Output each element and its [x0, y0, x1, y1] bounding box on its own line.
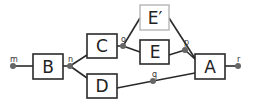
port-label-q: q: [152, 70, 157, 79]
box-A: A: [195, 54, 225, 79]
port-label-n: n: [68, 55, 73, 64]
box-label-D: D: [95, 76, 108, 96]
boxes: B C D E′ E A: [33, 5, 225, 98]
port-label-p: p: [184, 38, 189, 47]
port-label-r: r: [237, 55, 241, 64]
box-B: B: [33, 54, 63, 79]
edge-D-to-q: [117, 81, 153, 88]
port-dot-p: [182, 47, 188, 53]
box-label-E-prime: E′: [148, 8, 163, 28]
dataflow-diagram: B C D E′ E A m n o p: [0, 0, 253, 108]
edge-q-to-A: [153, 73, 195, 81]
port-label-o: o: [121, 35, 126, 44]
box-C: C: [87, 34, 117, 58]
box-label-C: C: [96, 36, 108, 56]
port-label-m: m: [10, 55, 18, 64]
box-E: E: [140, 40, 169, 64]
box-label-A: A: [204, 57, 216, 77]
box-label-E: E: [150, 42, 161, 62]
box-E-prime: E′: [140, 5, 169, 30]
box-D: D: [87, 74, 117, 98]
box-label-B: B: [42, 57, 54, 77]
edge-n-to-D: [70, 66, 87, 78]
